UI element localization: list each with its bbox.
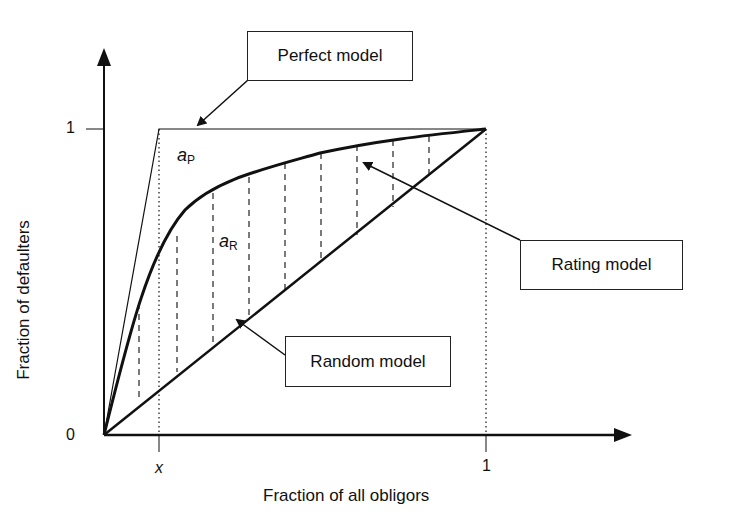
- x-axis-arrow-icon: [614, 428, 632, 442]
- area-label-ap: aP: [177, 145, 195, 167]
- y-tick-label-0: 0: [66, 426, 75, 444]
- random-model-label: Random model: [310, 352, 425, 372]
- y-axis-title: Fraction of defaulters: [14, 220, 34, 380]
- x-tick-label-x: x: [155, 459, 163, 477]
- perfect-model-callout: Perfect model: [247, 31, 413, 81]
- perfect-callout-arrow: [198, 80, 248, 125]
- random-model-curve: [104, 129, 486, 435]
- rating-model-callout: Rating model: [520, 240, 683, 290]
- y-tick-label-1: 1: [66, 119, 75, 137]
- area-label-ar: aR: [219, 231, 238, 253]
- rating-callout-arrow: [364, 163, 520, 240]
- y-axis-arrow-icon: [97, 48, 111, 66]
- rating-model-label: Rating model: [551, 255, 651, 275]
- x-axis-title: Fraction of all obligors: [263, 486, 429, 506]
- random-callout-arrow: [237, 320, 285, 355]
- perfect-model-label: Perfect model: [278, 46, 383, 66]
- x-tick-label-1: 1: [482, 457, 491, 475]
- random-model-callout: Random model: [285, 336, 451, 387]
